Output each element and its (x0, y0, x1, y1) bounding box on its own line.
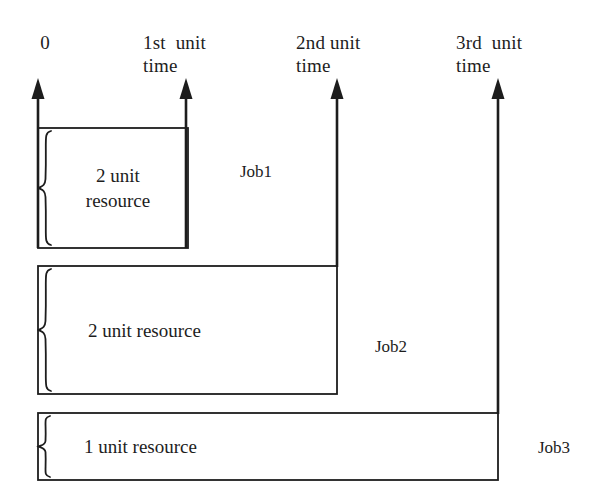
tick-label-t3-line2: time (456, 55, 491, 76)
job3-name-label: Job3 (538, 438, 570, 458)
axis-arrow-t3 (492, 78, 505, 414)
tick-label-t2-line2: time (296, 55, 331, 76)
job1-resource-label: 2 unitresource (56, 163, 180, 213)
job1-name-label: Job1 (240, 162, 272, 182)
tick-label-t3: 3rd unittime (456, 31, 522, 77)
job2-resource-label: 2 unit resource (88, 318, 201, 343)
job1-resource-line2: resource (86, 190, 150, 211)
tick-label-t3-line1: 3rd unit (456, 32, 522, 53)
job1-resource-line1: 2 unit (96, 165, 140, 186)
tick-label-t1-line2: time (143, 55, 178, 76)
axis-arrow-t2 (331, 78, 344, 267)
axis-arrow-t1 (180, 78, 193, 248)
tick-label-t2: 2nd unittime (296, 31, 360, 77)
job2-name-label: Job2 (375, 337, 407, 357)
tick-label-t2-line1: 2nd unit (296, 32, 360, 53)
diagram-canvas: 0 1st unittime 2nd unittime 3rd unittime… (0, 0, 603, 498)
tick-label-t1: 1st unittime (143, 31, 206, 77)
tick-label-t0: 0 (25, 31, 65, 54)
tick-label-t1-line1: 1st unit (143, 32, 206, 53)
job3-resource-label: 1 unit resource (84, 434, 197, 459)
